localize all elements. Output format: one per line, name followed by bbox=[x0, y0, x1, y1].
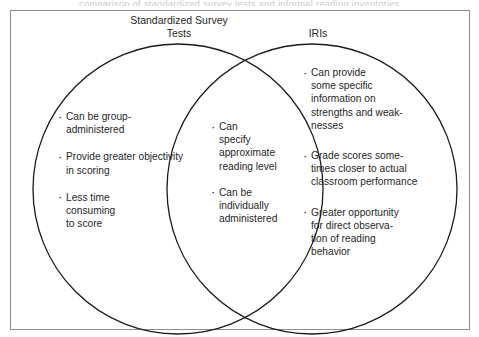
list-item: Can specify approximate reading level bbox=[211, 120, 279, 173]
list-item: Grade scores some- times closer to actua… bbox=[303, 149, 441, 189]
list-item: Provide greater objectivity in scoring bbox=[58, 150, 210, 176]
venn-heading-left: Standardized Survey Tests bbox=[108, 14, 250, 40]
venn-heading-right: IRIs bbox=[278, 27, 358, 40]
list-item: Less time consuming to score bbox=[58, 191, 210, 231]
venn-region-intersection: Can specify approximate reading level Ca… bbox=[211, 120, 279, 238]
list-item: Can provide some specific information on… bbox=[303, 66, 441, 132]
list-item: Greater opportunity for direct observa- … bbox=[303, 206, 441, 259]
list-item: Can be individually administered bbox=[211, 186, 279, 226]
list-item: Can be group- administered bbox=[58, 110, 210, 136]
venn-region-right-only: Can provide some specific information on… bbox=[303, 66, 441, 275]
venn-region-left-only: Can be group- administered Provide great… bbox=[58, 110, 210, 244]
